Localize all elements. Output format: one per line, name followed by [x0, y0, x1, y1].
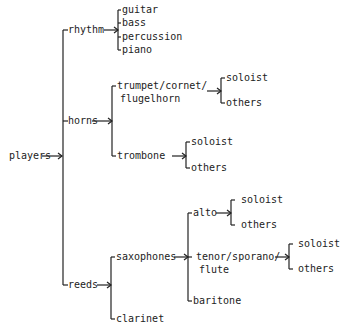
node-alto-others: others	[241, 219, 277, 230]
node-percussion: percussion	[122, 31, 182, 42]
node-trombone-soloist: soloist	[191, 136, 233, 147]
node-bass: bass	[122, 17, 146, 28]
node-tenor-line1: tenor/sporano/	[196, 251, 280, 262]
node-tenor-line2: flute	[199, 264, 229, 275]
node-trombone: trombone	[117, 150, 165, 161]
node-horns: horns	[68, 115, 98, 126]
node-guitar: guitar	[122, 4, 158, 15]
node-trumpet-others: others	[226, 97, 262, 108]
node-saxophones: saxophones	[116, 251, 176, 262]
node-baritone: baritone	[193, 295, 241, 306]
node-trumpet-line2: flugelhorn	[120, 93, 180, 104]
node-trombone-others: others	[191, 162, 227, 173]
node-piano: piano	[122, 44, 152, 55]
node-tenor-others: others	[298, 263, 334, 274]
node-reeds: reeds	[68, 279, 98, 290]
node-clarinet: clarinet	[116, 313, 164, 324]
node-trumpet-line1: trumpet/cornet/	[117, 80, 207, 91]
node-alto: alto	[193, 207, 217, 218]
node-rhythm: rhythm	[68, 24, 104, 35]
diagram-lines	[0, 0, 344, 332]
node-tenor-soloist: soloist	[298, 238, 340, 249]
node-players: players	[9, 150, 51, 161]
node-alto-soloist: soloist	[241, 194, 283, 205]
node-trumpet-soloist: soloist	[226, 72, 268, 83]
